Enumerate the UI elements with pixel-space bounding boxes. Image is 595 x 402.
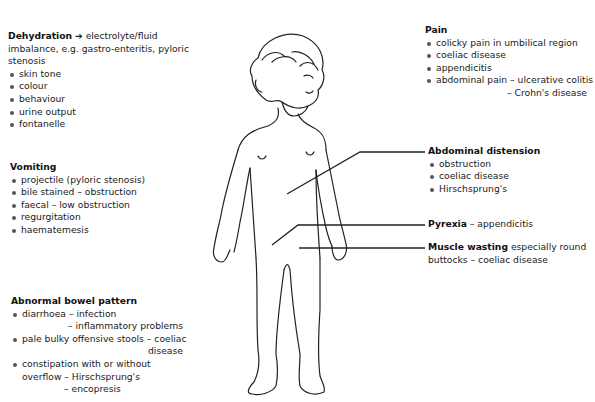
dehydration-heading: Dehydration ➔ electrolyte/fluid (8, 30, 218, 43)
head-outline (250, 34, 323, 108)
distension-block: Abdominal distension obstruction coeliac… (428, 145, 593, 195)
list-item: projectile (pyloric stenosis) (10, 174, 200, 187)
list-item: Hirschsprung's (428, 183, 593, 196)
list-item: pale bulky offensive stools – coeliac di… (11, 333, 191, 358)
list-item: haematemesis (10, 224, 200, 237)
wasting-title: Muscle wasting (428, 241, 508, 252)
list-item: urine output (8, 106, 218, 119)
list-item: bile stained – obstruction (10, 186, 200, 199)
list-item: faecal – low obstruction (10, 199, 200, 212)
list-item: coeliac disease (425, 49, 595, 62)
list-item: obstruction (428, 158, 593, 171)
pain-title: Pain (425, 24, 595, 37)
pyrexia-title: Pyrexia (428, 218, 467, 229)
list-item: abdominal pain – ulcerative colitis – Cr… (425, 74, 595, 99)
dehydration-block: Dehydration ➔ electrolyte/fluid imbalanc… (8, 30, 218, 131)
dehydration-desc: imbalance, e.g. gastro-enteritis, pylori… (8, 43, 218, 68)
list-item: regurgitation (10, 211, 200, 224)
list-item: constipation with or without overflow – … (11, 358, 191, 396)
list-item: appendicitis (425, 62, 595, 75)
pyrexia-text: – appendicitis (467, 218, 533, 229)
dehydration-list: skin tone colour behaviour urine output … (8, 68, 218, 131)
wasting-text: especially round (508, 241, 586, 252)
dehydration-lead: electrolyte/fluid (86, 30, 158, 41)
list-item: coeliac disease (428, 170, 593, 183)
bowel-title: Abnormal bowel pattern (11, 295, 191, 308)
list-item: skin tone (8, 68, 218, 81)
distension-title: Abdominal distension (428, 145, 593, 158)
leader-line-pyrexia (272, 225, 425, 245)
pain-block: Pain colicky pain in umbilical region co… (425, 24, 595, 100)
vomiting-title: Vomiting (10, 161, 200, 174)
dehydration-title: Dehydration (8, 30, 72, 41)
list-item: colicky pain in umbilical region (425, 37, 595, 50)
leader-line-distension (287, 152, 425, 194)
distension-list: obstruction coeliac disease Hirschsprung… (428, 158, 593, 196)
pain-list: colicky pain in umbilical region coeliac… (425, 37, 595, 100)
bowel-block: Abnormal bowel pattern diarrhoea – infec… (11, 295, 191, 396)
pyrexia-block: Pyrexia – appendicitis (428, 218, 593, 231)
vomiting-block: Vomiting projectile (pyloric stenosis) b… (10, 161, 200, 237)
bowel-list: diarrhoea – infection – inflammatory pro… (11, 308, 191, 396)
wasting-cont: buttocks – coeliac disease (428, 254, 593, 267)
arrow-right-icon: ➔ (75, 30, 83, 41)
list-item: behaviour (8, 93, 218, 106)
wasting-block: Muscle wasting especially round buttocks… (428, 241, 593, 266)
list-item: fontanelle (8, 118, 218, 131)
list-item: colour (8, 80, 218, 93)
list-item: diarrhoea – infection – inflammatory pro… (11, 308, 191, 333)
vomiting-list: projectile (pyloric stenosis) bile stain… (10, 174, 200, 237)
